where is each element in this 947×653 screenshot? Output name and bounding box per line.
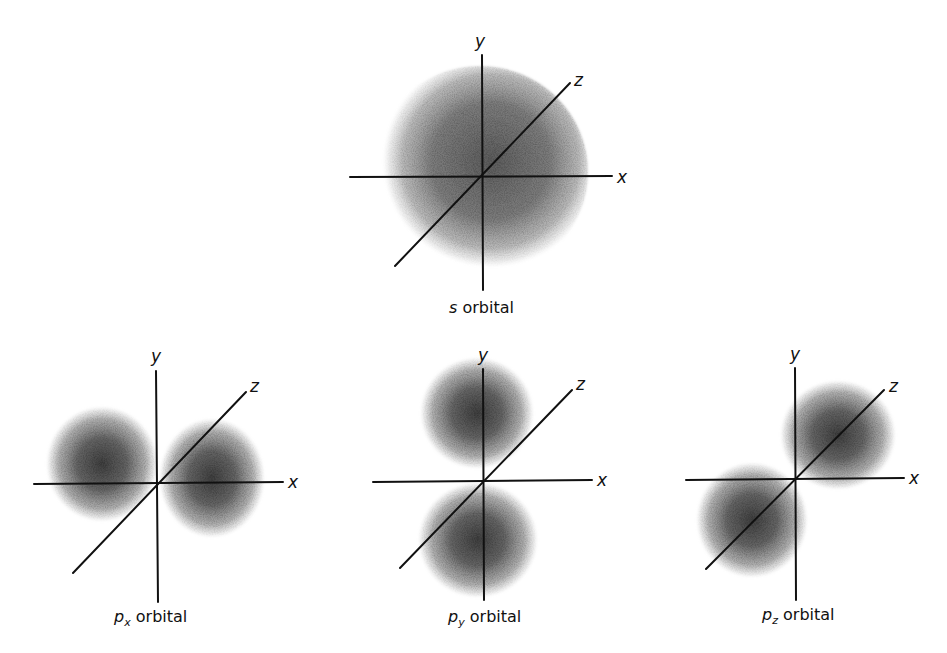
py-orbital-panel: y z x py orbital xyxy=(373,345,608,629)
s-caption: s orbital xyxy=(449,298,514,317)
pz-y-label: y xyxy=(789,344,801,364)
s-x-label: x xyxy=(616,167,628,187)
py-y-axis xyxy=(483,369,484,600)
py-z-label: z xyxy=(575,374,586,394)
s-y-axis xyxy=(482,55,483,290)
s-orbital-panel: y z x s orbital xyxy=(350,31,628,317)
px-lobe-right xyxy=(159,418,265,538)
pz-z-label: z xyxy=(888,376,899,396)
px-caption: px orbital xyxy=(113,607,187,629)
s-y-label: y xyxy=(474,31,486,51)
pz-caption: pz orbital xyxy=(761,605,835,627)
px-x-label: x xyxy=(287,472,299,492)
s-z-label: z xyxy=(573,70,584,90)
py-lobe-top xyxy=(420,357,534,469)
pz-orbital-panel: y z x pz orbital xyxy=(686,344,920,627)
py-x-label: x xyxy=(596,470,608,490)
px-orbital-panel: y z x px orbital xyxy=(34,346,299,629)
px-z-label: z xyxy=(249,376,260,396)
px-y-label: y xyxy=(150,346,162,366)
py-caption: py orbital xyxy=(447,607,521,629)
pz-x-label: x xyxy=(908,468,920,488)
py-y-label: y xyxy=(477,345,489,365)
pz-y-axis xyxy=(795,368,796,600)
orbital-diagram: y z x s orbital y z x px orbital y z x p… xyxy=(0,0,947,653)
px-lobe-left xyxy=(46,406,158,522)
py-lobe-bottom xyxy=(418,482,538,598)
